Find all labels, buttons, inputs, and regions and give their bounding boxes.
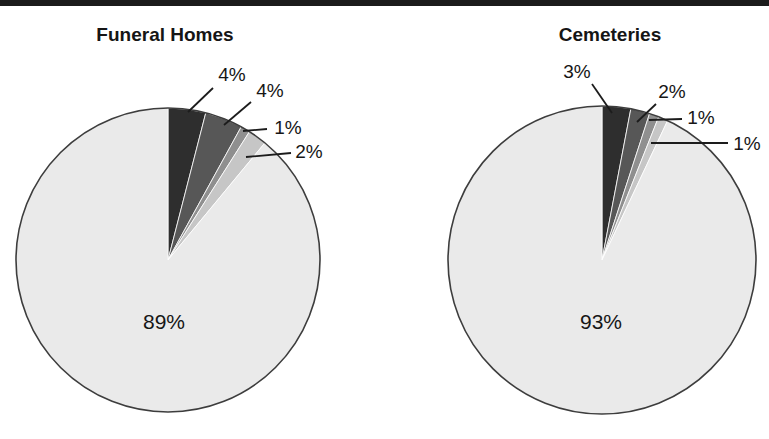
slice-percent-label: 1%: [274, 117, 302, 138]
leader-line: [224, 102, 251, 125]
pie-cemeteries: 3%2%1%1%93%: [448, 61, 761, 415]
pie-funeral-homes: 4%4%1%2%89%: [16, 64, 323, 413]
slice-percent-label: 2%: [295, 141, 323, 162]
slice-percent-label: 1%: [687, 107, 715, 128]
slice-percent-label: 4%: [256, 80, 284, 101]
slice-percent-label: 4%: [218, 64, 246, 85]
slice-percent-label: 89%: [143, 310, 185, 333]
leader-line: [188, 88, 213, 112]
pie-slice: [448, 106, 756, 414]
slice-percent-label: 1%: [733, 133, 761, 154]
slice-percent-label: 3%: [563, 61, 591, 82]
slice-percent-label: 2%: [658, 81, 686, 102]
slice-percent-label: 93%: [580, 310, 622, 333]
pie-charts-canvas: 4%4%1%2%89%3%2%1%1%93%: [0, 0, 769, 439]
leader-line: [649, 119, 682, 120]
figure: Funeral Homes Cemeteries 4%4%1%2%89%3%2%…: [0, 0, 769, 439]
